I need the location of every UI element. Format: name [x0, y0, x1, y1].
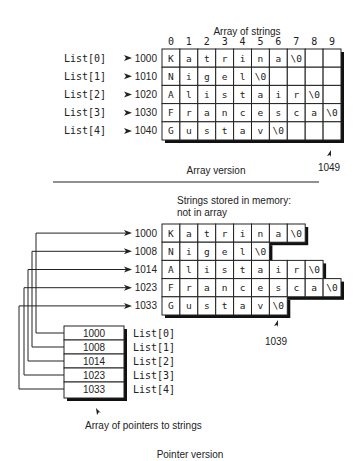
cell-char: K: [168, 228, 174, 239]
cell-char: i: [204, 264, 210, 275]
array-row: Francesca\0: [162, 104, 341, 122]
cell-char: \0: [308, 264, 320, 275]
column-index: 4: [240, 36, 246, 47]
cell-char: a: [186, 228, 192, 239]
cell-char: r: [293, 264, 299, 275]
cell-char: N: [168, 71, 174, 82]
array-row: Gustav\0: [162, 122, 341, 140]
cell-char: l: [240, 71, 246, 82]
memory-note-line2: not in array: [177, 207, 227, 218]
cell-char: a: [275, 53, 281, 64]
cell-char: t: [240, 264, 246, 275]
cell-char: v: [258, 125, 264, 136]
memory-address: 1014: [135, 264, 158, 275]
cell-char: l: [186, 264, 192, 275]
cell-char: e: [222, 246, 228, 257]
memory-address: 1033: [135, 300, 158, 311]
array-cell: [287, 67, 305, 85]
cell-char: i: [275, 89, 281, 100]
array-cell: [287, 122, 305, 140]
cell-char: r: [293, 89, 299, 100]
cell-char: i: [275, 264, 281, 275]
pointer-array-caption: Array of pointers to strings: [85, 420, 202, 431]
array-vs-pointer-diagram: Array of strings 0123456789 Katrina\0Nig…: [0, 0, 363, 461]
cell-char: i: [240, 53, 246, 64]
memory-address: 1000: [135, 228, 158, 239]
cell-char: s: [222, 89, 228, 100]
cell-char: \0: [273, 125, 285, 136]
row-label: List[3]: [64, 107, 106, 118]
row-label: List[1]: [64, 71, 106, 82]
cell-char: s: [275, 282, 281, 293]
cell-char: n: [222, 282, 228, 293]
array-cell: [305, 122, 323, 140]
column-index: 2: [204, 36, 210, 47]
strings-in-memory-grid: 1000Katrina\01008Nigel\01014Alistair\010…: [124, 224, 344, 318]
cell-char: A: [168, 264, 174, 275]
cell-char: t: [222, 125, 228, 136]
cell-char: K: [168, 53, 174, 64]
cell-char: s: [222, 264, 228, 275]
cell-char: u: [186, 300, 192, 311]
pointer-label: List[2]: [133, 356, 175, 367]
cell-char: a: [204, 107, 210, 118]
array-cell: [269, 67, 287, 85]
cell-char: u: [186, 125, 192, 136]
pointer-version-caption: Pointer version: [157, 449, 224, 460]
cell-char: \0: [255, 246, 267, 257]
row-label: List[4]: [64, 125, 106, 136]
column-index: 5: [257, 36, 263, 47]
pointer-label: List[4]: [133, 384, 175, 395]
pointer-line: [36, 233, 126, 333]
pointer-array: 1000List[0]1008List[1]1014List[2]1023Lis…: [64, 326, 175, 401]
column-indices: 0123456789: [168, 36, 335, 47]
cell-char: a: [204, 282, 210, 293]
array-cell: [323, 67, 341, 85]
memory-string-row: 1014Alistair\0: [124, 260, 323, 278]
cell-char: \0: [326, 282, 338, 293]
cell-char: c: [240, 107, 246, 118]
pointer-label: List[3]: [133, 370, 175, 381]
cell-char: g: [204, 71, 210, 82]
array-cell: [305, 49, 323, 67]
cell-char: \0: [326, 107, 338, 118]
array-cell: [323, 122, 341, 140]
cell-char: s: [275, 107, 281, 118]
cell-char: t: [240, 89, 246, 100]
cell-char: r: [186, 282, 192, 293]
array-of-strings-grid: Katrina\0Nigel\0Alistair\0Francesca\0Gus…: [162, 49, 344, 143]
column-index: 9: [329, 36, 335, 47]
row-address: 1020: [135, 89, 158, 100]
memory-address: 1008: [135, 246, 158, 257]
pointer-value: 1023: [83, 370, 106, 381]
arrow-icon: [327, 150, 331, 157]
cell-char: i: [186, 71, 192, 82]
cell-char: r: [186, 107, 192, 118]
cell-char: a: [240, 300, 246, 311]
column-index: 8: [311, 36, 317, 47]
cell-char: a: [311, 107, 317, 118]
cell-char: a: [258, 264, 264, 275]
cell-char: s: [204, 125, 210, 136]
cell-char: c: [240, 282, 246, 293]
array-row: Nigel\0: [162, 67, 341, 85]
pointer-value: 1014: [83, 356, 106, 367]
pointer-label: List[0]: [133, 328, 175, 339]
column-index: 6: [275, 36, 281, 47]
cell-char: a: [258, 89, 264, 100]
cell-char: G: [168, 125, 174, 136]
memory-address: 1023: [135, 282, 158, 293]
pointer-version: Strings stored in memory: not in array 1…: [19, 195, 344, 460]
cell-char: F: [168, 282, 174, 293]
cell-char: g: [204, 246, 210, 257]
pointer-label: List[1]: [133, 342, 175, 353]
pointer-value: 1000: [83, 328, 106, 339]
cell-char: G: [168, 300, 174, 311]
cell-char: c: [293, 107, 299, 118]
memory-string-row: 1033Gustav\0: [124, 297, 287, 315]
cell-char: n: [258, 53, 264, 64]
array-end-address: 1049: [318, 162, 341, 173]
cell-char: e: [258, 107, 264, 118]
arrow-icon: [274, 320, 278, 327]
cell-char: a: [311, 282, 317, 293]
